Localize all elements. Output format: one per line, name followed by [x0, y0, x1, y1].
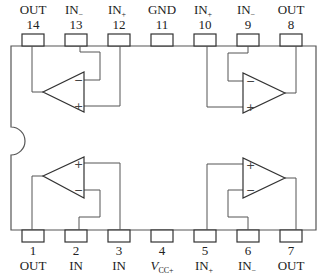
pin-14: [22, 34, 44, 46]
opamp-bottom-left: + −: [43, 157, 84, 198]
pin-11: [151, 34, 173, 46]
plus-sign: +: [246, 101, 255, 114]
bottom-pins: [22, 230, 302, 242]
pin-name: VCC+: [150, 258, 174, 275]
pin-number: 3: [116, 243, 123, 258]
pin-name: OUT: [278, 2, 305, 17]
pin-name: IN: [69, 258, 83, 273]
minus-sign: −: [74, 184, 83, 197]
pin-9: [237, 34, 259, 46]
pin-number: 4: [159, 243, 166, 258]
pin-name: OUT: [278, 258, 305, 273]
pin-number: 2: [73, 243, 80, 258]
bottom-pin-labels: 1 OUT 2 IN 3 IN 4 VCC+ 5 IN+ 6 IN− 7 OUT: [20, 243, 305, 275]
pin-10: [194, 34, 216, 46]
minus-sign: −: [246, 75, 255, 88]
pin-3: [108, 230, 130, 242]
pin-4: [151, 230, 173, 242]
wire-in-5: [207, 164, 243, 230]
pin-number: 6: [245, 243, 252, 258]
pin-8: [280, 34, 302, 46]
wire-in-10: [207, 46, 243, 107]
wire-out-8: [285, 46, 296, 93]
minus-sign: −: [74, 74, 83, 87]
wire-out-7: [285, 178, 296, 230]
package-body: [11, 46, 316, 230]
pin-6: [237, 230, 259, 242]
pin-name: OUT: [20, 258, 47, 273]
pin-name: GND: [148, 2, 176, 17]
pin-number: 9: [245, 17, 252, 32]
pin-number: 11: [156, 17, 169, 32]
opamp-top-left: − +: [43, 72, 84, 113]
top-pin-labels: OUT 14 IN− 13 IN+ 12 GND 11 IN+ 10 IN− 9…: [20, 2, 305, 32]
pin-name: IN: [112, 258, 126, 273]
plus-sign: +: [74, 158, 83, 171]
pin-number: 13: [70, 17, 83, 32]
pin-number: 8: [288, 17, 295, 32]
wire-out-14: [32, 46, 43, 92]
pin-7: [280, 230, 302, 242]
pin-name: IN+: [195, 258, 214, 275]
pin-number: 1: [30, 243, 37, 258]
pin-number: 12: [113, 17, 126, 32]
pin-number: 14: [27, 17, 41, 32]
opamp-bottom-right: + −: [243, 158, 285, 198]
wire-out-1: [32, 176, 43, 230]
pin-13: [65, 34, 87, 46]
pin-number: 7: [288, 243, 295, 258]
plus-sign: +: [74, 100, 83, 113]
ic-pinout-diagram: − + − + + − + − OUT 14 IN− 13 IN+ 12 GND…: [0, 0, 326, 276]
minus-sign: −: [246, 184, 255, 197]
pin-1: [22, 230, 44, 242]
wire-in-3: [84, 163, 120, 230]
pin-name: IN−: [238, 258, 257, 275]
pin-number: 5: [202, 243, 209, 258]
top-pins: [22, 34, 302, 46]
pin-5: [194, 230, 216, 242]
opamp-top-right: − +: [243, 73, 285, 114]
pin-name: OUT: [20, 2, 47, 17]
plus-sign: +: [246, 159, 255, 172]
pin-number: 10: [199, 17, 212, 32]
pin-12: [108, 34, 130, 46]
pin-2: [65, 230, 87, 242]
wire-in-12: [84, 46, 120, 106]
